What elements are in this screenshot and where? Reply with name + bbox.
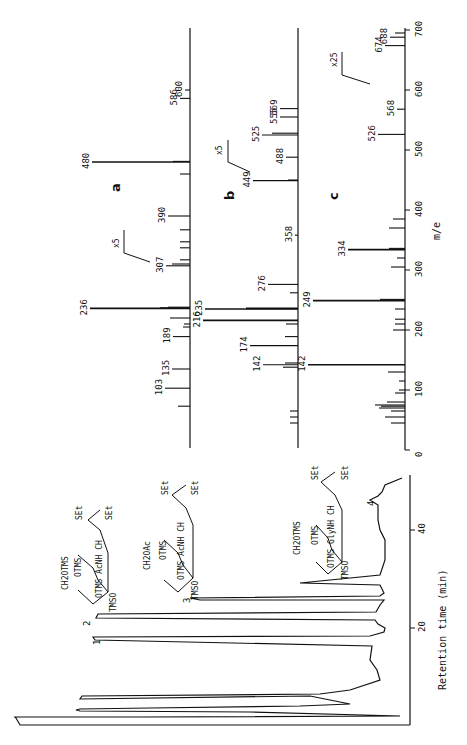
svg-text:TMSO: TMSO xyxy=(341,561,350,580)
mz-axis-ticks: 0100200300400500600700 xyxy=(405,21,424,457)
mz-tick-label: 600 xyxy=(414,81,424,97)
spectrum-b-peaks: 142174216235276358449488525555569 xyxy=(192,99,298,423)
mz-axis-title: m/e xyxy=(431,222,442,240)
peak-label-1: 1 xyxy=(92,640,102,645)
svg-text:SEt: SEt xyxy=(341,465,350,480)
panel-c-label: c xyxy=(326,192,341,200)
mz-tick-label: 300 xyxy=(414,261,424,277)
peak-mz-label: 569 xyxy=(269,99,279,115)
svg-text:OTMS: OTMS xyxy=(311,526,320,545)
peak-mz-label: 334 xyxy=(337,240,347,256)
peak-mz-label: 236 xyxy=(79,299,89,315)
spectrum-a: 103135189236307390480586600 a x5 xyxy=(79,28,190,448)
peak-label-2: 2 xyxy=(82,621,92,626)
mz-tick-label: 100 xyxy=(414,381,424,397)
mz-tick-label: 200 xyxy=(414,321,424,337)
svg-text:OTMS AcNH CH: OTMS AcNH CH xyxy=(177,522,186,580)
svg-text:SEt: SEt xyxy=(191,480,200,495)
spectrum-a-peaks: 103135189236307390480586600 xyxy=(79,81,190,406)
svg-text:CH2OTMS: CH2OTMS xyxy=(293,521,302,555)
panel-a-label: a xyxy=(108,183,123,192)
svg-text:CH2OTMS: CH2OTMS xyxy=(61,556,70,590)
svg-text:OTMS: OTMS xyxy=(74,558,83,577)
peak-mz-label: 480 xyxy=(81,153,91,169)
mz-tick-label: 500 xyxy=(414,141,424,157)
svg-text:SEt: SEt xyxy=(311,465,320,480)
rt-axis-title: Retention time (min) xyxy=(437,570,448,690)
peak-mz-label: 249 xyxy=(302,291,312,307)
x5-label-b: x5 xyxy=(215,145,224,155)
peak-mz-label: 488 xyxy=(275,148,285,164)
svg-text:SEt: SEt xyxy=(75,505,84,520)
x25-label-c: x25 xyxy=(330,52,339,67)
peak-mz-label: 142 xyxy=(297,356,307,372)
peak-mz-label: 142 xyxy=(252,356,262,372)
mz-tick-label: 400 xyxy=(414,201,424,217)
x5-marker-a xyxy=(124,230,150,262)
panel-b-label: b xyxy=(222,191,237,200)
peak-mz-label: 358 xyxy=(284,226,294,242)
peak-mz-label: 307 xyxy=(155,257,165,273)
spectrum-b: 142174216235276358449488525555569 b x5 xyxy=(192,28,298,448)
svg-text:CH2OAc: CH2OAc xyxy=(143,541,152,570)
spectrum-c-peaks: 142249334526568674688 xyxy=(297,28,405,423)
svg-text:SEt: SEt xyxy=(161,480,170,495)
peak-mz-label: 103 xyxy=(154,379,164,395)
structure-peak3: CH2OAc OTMS OTMS AcNH CH TMSO SEt SEt xyxy=(143,480,200,600)
rt-tick-label-40: 40 xyxy=(417,523,427,534)
svg-text:TMSO: TMSO xyxy=(109,593,118,612)
structure-peak2: CH2OTMS OTMS OTMS AcNH CH TMSO SEt SEt xyxy=(61,505,118,612)
peak-mz-label: 525 xyxy=(251,126,261,142)
peak-mz-label: 568 xyxy=(386,100,396,116)
svg-text:OTMS GlyNH CH: OTMS GlyNH CH xyxy=(327,505,336,568)
structure-peak4: CH2OTMS OTMS OTMS GlyNH CH TMSO SEt SEt xyxy=(293,465,350,580)
peak-mz-label: 276 xyxy=(257,275,267,291)
peak-mz-label: 174 xyxy=(239,336,249,352)
x5-marker-b xyxy=(228,140,250,172)
mz-tick-label: 0 xyxy=(414,452,424,457)
peak-mz-label: 449 xyxy=(242,171,252,187)
svg-text:SEt: SEt xyxy=(105,505,114,520)
svg-text:OTMS AcNH CH: OTMS AcNH CH xyxy=(95,540,104,598)
mz-tick-label: 700 xyxy=(414,21,424,37)
figure: 103135189236307390480586600 a x5 1421742… xyxy=(0,0,467,745)
peak-mz-label: 526 xyxy=(367,125,377,141)
peak-mz-label: 600 xyxy=(174,81,184,97)
x5-label-a: x5 xyxy=(112,238,121,248)
svg-text:OTMS: OTMS xyxy=(159,541,168,560)
peak-mz-label: 235 xyxy=(194,300,204,316)
peak-mz-label: 135 xyxy=(161,360,171,376)
svg-text:TMSO: TMSO xyxy=(191,581,200,600)
peak-mz-label: 189 xyxy=(162,327,172,343)
peak-label-4: 4 xyxy=(366,501,376,506)
rt-tick-label-20: 20 xyxy=(417,621,427,632)
x25-marker-c xyxy=(342,52,370,84)
spectrum-c: 142249334526568674688 010020030040050060… xyxy=(297,21,442,457)
peak-mz-label: 688 xyxy=(379,28,389,44)
peak-mz-label: 390 xyxy=(157,207,167,223)
chromatogram-trace xyxy=(15,478,405,725)
